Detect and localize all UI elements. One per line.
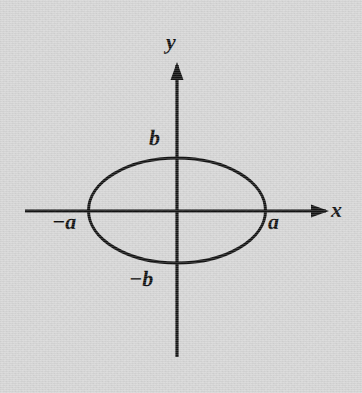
y-axis-arrowhead bbox=[171, 62, 184, 80]
ellipse-figure: y x b −b −a a bbox=[0, 0, 362, 393]
x-intercept-a-label: a bbox=[268, 211, 279, 233]
y-axis-label: y bbox=[166, 31, 176, 53]
coordinate-plot bbox=[0, 0, 362, 393]
x-axis-label: x bbox=[331, 199, 342, 221]
x-axis-arrowhead bbox=[311, 205, 329, 218]
y-intercept-b-label: b bbox=[149, 127, 160, 149]
x-intercept-minus-a-label: −a bbox=[52, 211, 76, 233]
y-intercept-minus-b-label: −b bbox=[129, 268, 153, 290]
